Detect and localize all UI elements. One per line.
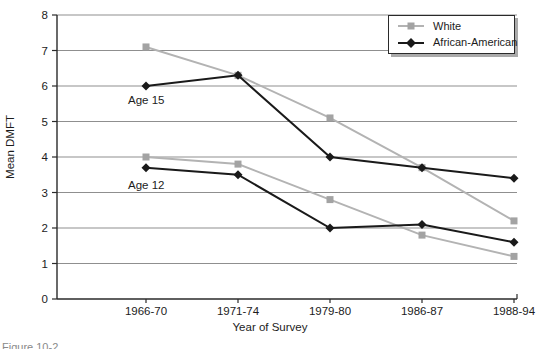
x-tick-label: 1988-94 [493, 305, 536, 317]
legend-item-african-american: African-American [398, 36, 514, 49]
legend-item-white: White [398, 20, 514, 33]
african-american-series-sample [398, 38, 424, 48]
legend-label-african-american: African-American [433, 37, 517, 48]
square-marker-icon [235, 161, 242, 168]
diamond-marker-icon [234, 170, 243, 179]
y-tick-label: 2 [42, 222, 48, 234]
square-marker-icon [408, 23, 415, 30]
y-axis-title: Mean DMFT [4, 115, 16, 179]
legend-label-white: White [433, 21, 461, 32]
square-marker-icon [143, 154, 150, 161]
square-marker-icon [327, 114, 334, 121]
diamond-marker-icon [510, 174, 519, 183]
dmft-trend-figure: 0123456781966-701971-741979-801986-87198… [0, 0, 548, 349]
square-marker-icon [511, 253, 518, 260]
y-tick-label: 4 [42, 151, 49, 163]
diamond-marker-icon [510, 238, 519, 247]
figure-caption-clipped: Figure 10-2 [2, 341, 546, 349]
x-tick-label: 1966-70 [125, 305, 167, 317]
y-tick-label: 6 [42, 80, 48, 92]
y-tick-label: 5 [42, 116, 48, 128]
x-tick-label: 1971-74 [217, 305, 260, 317]
age-group-annotation: Age 15 [128, 94, 164, 106]
diamond-marker-icon [142, 163, 151, 172]
series-line-white-age-15 [146, 47, 514, 221]
diamond-marker-icon [142, 82, 151, 91]
square-marker-icon [419, 232, 426, 239]
x-axis-title: Year of Survey [232, 321, 307, 333]
y-tick-label: 0 [42, 293, 48, 305]
y-tick-label: 7 [42, 45, 48, 57]
square-marker-icon [143, 43, 150, 50]
diamond-marker-icon [406, 38, 416, 48]
y-tick-label: 1 [42, 258, 48, 270]
x-tick-label: 1979-80 [309, 305, 351, 317]
square-marker-icon [327, 196, 334, 203]
age-group-annotation: Age 12 [128, 179, 164, 191]
x-tick-label: 1986-87 [401, 305, 443, 317]
y-tick-label: 8 [42, 9, 48, 21]
series-line-african-american-age-15 [146, 75, 514, 178]
white-series-sample [398, 21, 424, 31]
square-marker-icon [511, 217, 518, 224]
legend: White African-American [388, 15, 515, 54]
y-tick-label: 3 [42, 187, 48, 199]
diamond-marker-icon [326, 224, 335, 233]
